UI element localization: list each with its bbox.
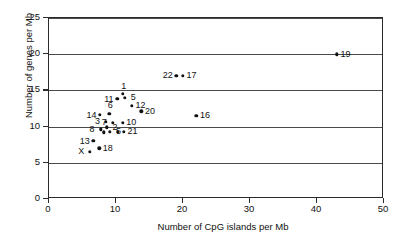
x-tick-label-20: 20 [177, 204, 188, 214]
data-point-chr-X [88, 150, 91, 153]
data-point-chr-21 [122, 130, 125, 133]
data-point-chr-12 [130, 104, 133, 107]
data-point-chr-20 [140, 110, 143, 113]
extra-label-5: 5 [116, 127, 121, 136]
data-point-label-chr-22: 22 [163, 71, 173, 80]
data-point-chr-22 [175, 74, 178, 77]
y-tick-label-5: 5 [35, 157, 40, 167]
y-tick-label-0: 0 [35, 193, 40, 203]
data-point-label-chr-X: X [78, 147, 84, 156]
x-axis-title-text: Number of CpG islands per Mb [158, 221, 289, 232]
x-tick-label-40: 40 [311, 204, 322, 214]
x-tick-label-10: 10 [110, 204, 121, 214]
data-point-label-chr-8: 8 [90, 124, 95, 133]
data-point-label-chr-19: 19 [341, 49, 351, 58]
data-point-label-chr-6: 6 [108, 101, 113, 110]
x-tick-label-50: 50 [378, 204, 389, 214]
data-point-chr-9 [102, 131, 105, 134]
data-point-chr-5 [123, 96, 126, 99]
data-point-label-chr-16: 16 [200, 111, 210, 120]
data-point-label-chr-3: 3 [95, 117, 100, 126]
gridline-y-5 [49, 163, 382, 164]
gridline-y-20 [49, 54, 382, 55]
y-axis-title: Number of genes per Mb [23, 0, 34, 141]
data-point-chr-6 [108, 112, 111, 115]
data-point-chr-10 [121, 121, 124, 124]
gridline-y-25 [49, 18, 382, 19]
scatter-plot-figure: 0510152025 01020304050 19172215111220614… [0, 0, 402, 242]
data-point-label-chr-21: 21 [128, 127, 138, 136]
data-point-label-chr-20: 20 [145, 106, 155, 115]
gridline-y-15 [49, 90, 382, 91]
data-point-label-chr-13: 13 [80, 136, 90, 145]
data-point-label-chr-17: 17 [186, 71, 196, 80]
data-point-chr-18 [98, 147, 101, 150]
data-point-chr-19 [335, 52, 338, 55]
plot-area: 1917221511122061416371028211318X5 [48, 17, 383, 198]
data-point-chr-2 [105, 126, 108, 129]
data-point-chr-11 [116, 97, 119, 100]
data-point-label-chr-18: 18 [103, 143, 113, 152]
x-tick-label-0: 0 [45, 204, 50, 214]
data-point-label-chr-1: 1 [121, 81, 126, 90]
data-point-chr-13 [92, 139, 95, 142]
x-tick-label-30: 30 [244, 204, 255, 214]
x-axis-title: Number of CpG islands per Mb [0, 221, 402, 232]
data-point-chr-15 [108, 130, 111, 133]
data-point-chr-17 [181, 74, 184, 77]
data-point-chr-16 [195, 114, 198, 117]
